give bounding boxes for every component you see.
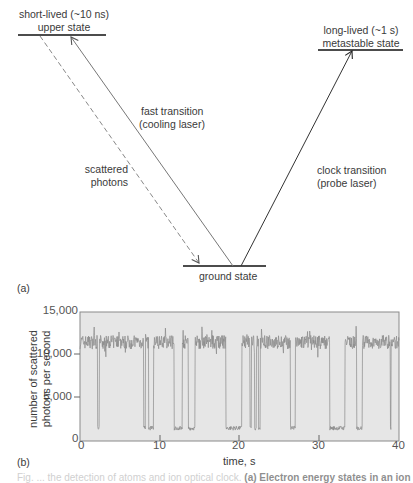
panel-b-label: (b): [17, 456, 30, 469]
y-tick-15000: 15,000: [43, 304, 78, 316]
caption-faint: Fig. ... the detection of atoms and ion …: [17, 472, 242, 483]
caption-bold: (a) Electron energy states in an ion: [244, 472, 410, 483]
chart-plot-area: [80, 312, 399, 441]
x-tick-40: 40: [392, 439, 405, 451]
y-axis-label: number of scattered photons per second: [27, 329, 53, 429]
x-tick-0: 0: [78, 439, 84, 451]
x-tick-10: 10: [153, 439, 166, 451]
x-axis-label: time, s: [223, 455, 255, 468]
figure-caption: Fig. ... the detection of atoms and ion …: [17, 472, 411, 483]
x-tick-30: 30: [312, 439, 325, 451]
x-tick-20: 20: [232, 439, 245, 451]
